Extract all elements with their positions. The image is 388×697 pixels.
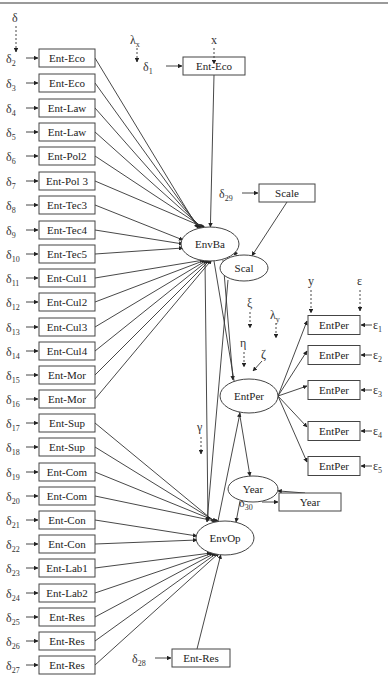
loading-path — [278, 396, 307, 427]
loading-path — [95, 260, 204, 278]
indicator-label: Ent-Tec4 — [47, 224, 88, 236]
structural-path-envop-to-entper — [218, 413, 240, 521]
delta-7-label: δ7 — [6, 175, 16, 191]
delta-16-label: δ16 — [6, 393, 20, 409]
indicator-label: Ent-Con — [48, 538, 86, 550]
latent-label: EntPer — [234, 390, 264, 402]
delta-9-label: δ9 — [6, 224, 16, 240]
delta-23-label: δ23 — [6, 562, 20, 578]
loading-path — [95, 520, 197, 536]
loading-path — [278, 386, 307, 396]
delta-5-label: δ5 — [6, 126, 16, 142]
x-notation: x — [211, 33, 217, 47]
indicator-label: Ent-Lab2 — [46, 587, 88, 599]
delta-19-label: δ19 — [6, 466, 20, 482]
loading-path — [95, 472, 218, 522]
delta-21-label: δ21 — [6, 514, 20, 530]
epsilon-3-label: ε3 — [373, 383, 382, 399]
indicator-label: Ent-Sup — [49, 417, 86, 429]
latent-label: EnvOp — [209, 532, 241, 544]
indicator-label: EntPer — [319, 460, 349, 472]
indicator-label: EntPer — [319, 349, 349, 361]
loading-path — [95, 260, 212, 399]
indicator-path — [210, 75, 214, 227]
indicator-label: Ent-Mor — [48, 393, 86, 405]
eta-notation: η — [240, 336, 246, 350]
delta-13-label: δ13 — [6, 321, 20, 337]
delta-27-label: δ27 — [6, 659, 20, 675]
loading-path — [95, 553, 213, 593]
indicator-label: Ent-Res — [49, 611, 84, 623]
epsilon-notation: ε — [357, 274, 362, 288]
indicator-label: Ent-Con — [48, 514, 86, 526]
indicator-label: Ent-Eco — [49, 52, 86, 64]
latent-label: Scal — [235, 262, 254, 274]
epsilon-1-label: ε1 — [373, 318, 382, 334]
structural-path-envba-to-year — [214, 261, 250, 476]
delta-25-label: δ25 — [6, 611, 20, 627]
indicator-label: Ent-Law — [48, 102, 87, 114]
delta-18-label: δ18 — [6, 441, 20, 457]
loading-path — [95, 156, 204, 228]
latent-label: EnvBa — [195, 238, 225, 250]
nodes-layer: Ent-Ecoδ2Ent-Ecoδ3Ent-Lawδ4Ent-Lawδ5Ent-… — [6, 49, 382, 675]
delta-26-label: δ26 — [6, 635, 20, 651]
indicator-label: Ent-Res — [183, 652, 218, 664]
loading-path — [95, 540, 197, 544]
delta-29-label: δ29 — [219, 187, 233, 203]
xi-notation: ξ — [247, 296, 253, 310]
indicator-label: EntPer — [319, 425, 349, 437]
indicator-label: Ent-Res — [49, 659, 84, 671]
sem-diagram: Ent-Ecoδ2Ent-Ecoδ3Ent-Lawδ4Ent-Lawδ5Ent-… — [0, 0, 388, 697]
delta-10-label: δ10 — [6, 248, 20, 264]
delta-22-label: δ22 — [6, 538, 20, 554]
delta-11-label: δ11 — [6, 272, 19, 288]
indicator-label: Ent-Sup — [49, 441, 86, 453]
delta-1-label: δ1 — [143, 60, 153, 76]
y-notation: y — [308, 274, 314, 288]
indicator-path — [197, 555, 221, 649]
delta-14-label: δ14 — [6, 345, 20, 361]
loading-path — [95, 205, 183, 240]
delta-notation: δ — [12, 11, 18, 25]
delta-3-label: δ3 — [6, 77, 16, 93]
indicator-label: Ent-Eco — [49, 77, 86, 89]
indicator-label: Ent-Tec5 — [47, 248, 88, 260]
delta-4-label: δ4 — [6, 102, 16, 118]
delta-17-label: δ17 — [6, 417, 20, 433]
loading-path — [95, 181, 206, 228]
zeta-notation-arrow — [253, 361, 262, 371]
indicator-label: Ent-Cul3 — [47, 321, 88, 333]
loading-path — [95, 260, 207, 327]
loading-path — [95, 260, 209, 351]
structural-path-envba-to-envop — [205, 261, 208, 521]
loading-path — [95, 230, 183, 244]
delta-20-label: δ20 — [6, 490, 20, 506]
lambda-x-notation: λx — [130, 33, 140, 49]
indicator-label: Ent-Pol2 — [47, 150, 86, 162]
loading-path — [95, 83, 200, 228]
loading-path — [278, 396, 307, 462]
indicator-label: Ent-Com — [47, 490, 88, 502]
latent-label: Year — [243, 483, 264, 495]
delta-24-label: δ24 — [6, 587, 20, 603]
delta-15-label: δ15 — [6, 369, 20, 385]
indicator-label: Ent-Law — [48, 126, 87, 138]
loading-path — [95, 496, 220, 522]
lambda-y-notation: λy — [270, 308, 280, 324]
loading-path — [95, 423, 215, 522]
indicator-path — [252, 202, 287, 256]
indicator-label: Ent-Cul1 — [47, 272, 87, 284]
loading-path — [95, 260, 210, 375]
delta-12-label: δ12 — [6, 296, 20, 312]
indicator-label: EntPer — [319, 384, 349, 396]
loading-path — [95, 553, 211, 568]
delta-6-label: δ6 — [6, 150, 16, 166]
epsilon-4-label: ε4 — [373, 424, 382, 440]
loading-path — [95, 553, 217, 641]
indicator-label: Ent-Res — [49, 635, 84, 647]
loading-path — [95, 553, 219, 665]
loading-path — [95, 108, 201, 228]
indicator-label: Ent-Cul4 — [47, 345, 88, 357]
indicator-label: Ent-Mor — [48, 369, 86, 381]
